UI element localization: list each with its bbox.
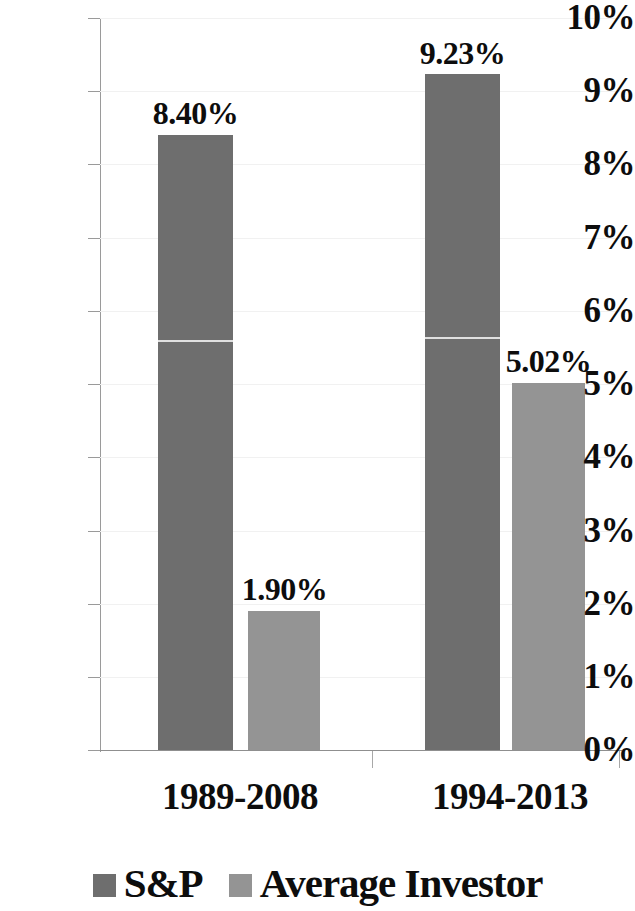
y-tick xyxy=(88,677,100,678)
y-tick xyxy=(88,18,100,19)
bar-value-label-avg-1989-2008: 1.90% xyxy=(222,573,347,605)
bar-avg-1989-2008 xyxy=(248,611,320,750)
legend-label-sp: S&P xyxy=(124,863,203,904)
legend-item-sp: S&P xyxy=(93,863,203,904)
legend-swatch-icon-sp xyxy=(93,874,116,897)
chart-legend: S&P Average Investor xyxy=(0,855,635,911)
category-separator-tick xyxy=(372,751,373,768)
y-tick-label-2: 2% xyxy=(549,586,635,621)
y-tick xyxy=(88,604,100,605)
y-tick-label-1: 1% xyxy=(549,659,635,694)
y-tick-label-3: 3% xyxy=(549,513,635,548)
y-tick xyxy=(88,238,100,239)
y-tick xyxy=(88,311,100,312)
scan-artifact-line xyxy=(425,337,500,339)
legend-item-average-investor: Average Investor xyxy=(229,863,543,904)
y-tick-label-5: 5% xyxy=(549,366,635,401)
y-tick-label-7: 7% xyxy=(549,220,635,255)
bar-sp-1989-2008 xyxy=(158,135,233,750)
gridline xyxy=(100,91,620,92)
y-tick xyxy=(88,384,100,385)
bar-chart: 8.40% 1.90% 9.23% 5.02% 10% 9% 8% 7% 6% … xyxy=(0,0,635,911)
gridline xyxy=(100,18,620,19)
y-tick-label-9: 9% xyxy=(549,73,635,108)
category-label-1994-2013: 1994-2013 xyxy=(385,778,635,815)
y-tick xyxy=(88,164,100,165)
y-tick-label-6: 6% xyxy=(549,293,635,328)
y-tick-label-8: 8% xyxy=(549,146,635,181)
legend-swatch-icon-average-investor xyxy=(229,874,252,897)
y-tick xyxy=(88,531,100,532)
y-tick xyxy=(88,91,100,92)
y-tick-label-4: 4% xyxy=(549,439,635,474)
plot-area: 8.40% 1.90% 9.23% 5.02% xyxy=(100,18,620,750)
bar-value-label-sp-1989-2008: 8.40% xyxy=(133,97,258,129)
bar-value-label-sp-1994-2013: 9.23% xyxy=(400,37,525,69)
y-tick-label-0: 0% xyxy=(549,732,635,767)
y-tick xyxy=(88,457,100,458)
y-tick-label-10: 10% xyxy=(549,0,635,35)
scan-artifact-line xyxy=(158,340,233,342)
bar-sp-1994-2013 xyxy=(425,74,500,750)
x-axis-line xyxy=(88,750,622,751)
y-tick xyxy=(88,750,100,751)
category-label-1989-2008: 1989-2008 xyxy=(115,778,365,815)
legend-label-average-investor: Average Investor xyxy=(260,863,543,904)
y-axis-line xyxy=(100,18,101,752)
